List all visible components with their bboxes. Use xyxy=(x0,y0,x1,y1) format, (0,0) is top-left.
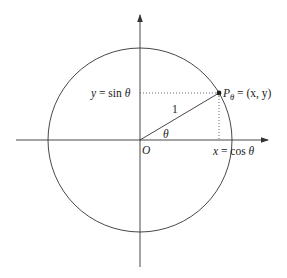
point-name: P xyxy=(222,87,230,99)
y-sin-label: y = sin θ xyxy=(90,87,131,100)
angle-label: θ xyxy=(163,128,169,140)
radius-line xyxy=(140,93,219,140)
radius-label: 1 xyxy=(172,103,178,115)
y-sin-text: = sin xyxy=(96,87,125,99)
origin-label: O xyxy=(142,144,151,156)
x-theta: θ xyxy=(249,145,255,157)
unit-circle-diagram: O 1 θ Pθ = (x, y) y = sin θ x = cos θ xyxy=(0,0,287,278)
point-label: Pθ = (x, y) xyxy=(222,87,272,102)
point-p-dot xyxy=(217,91,222,96)
point-coords: = (x, y) xyxy=(234,87,271,100)
y-theta: θ xyxy=(125,87,131,99)
x-cos-text: = cos xyxy=(218,145,248,157)
x-cos-label: x = cos θ xyxy=(212,145,255,157)
